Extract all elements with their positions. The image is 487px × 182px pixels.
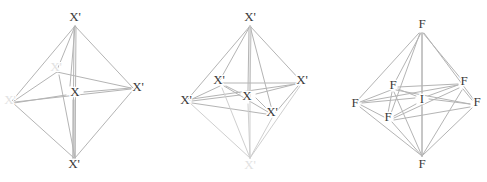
figure-iodine-heptafluoride: F F I F F F F F xyxy=(325,0,487,182)
atom-label-apical-top: X' xyxy=(69,9,81,24)
bond-bottom-fLL xyxy=(392,122,422,156)
atom-label-equatorial-c: X' xyxy=(4,92,16,107)
bond-eqA-eqC xyxy=(14,72,57,101)
figure-right-svg: F F I F F F F F xyxy=(325,0,487,182)
atom-label-equatorial-b: X' xyxy=(296,72,308,87)
bond-iodine-fLL xyxy=(394,104,416,116)
atom-label-fluorine-upper-right: F xyxy=(460,73,467,88)
figure-trigonal-bipyramidal: X' X' X X' X' X' xyxy=(0,0,162,182)
bond-top-center xyxy=(248,27,249,90)
bond-network-right xyxy=(357,33,474,156)
atom-label-iodine-center: I xyxy=(420,91,424,106)
bond-top-eqC xyxy=(12,26,75,101)
atom-label-central: X xyxy=(70,84,80,99)
bond-top-eqC xyxy=(188,26,250,99)
bond-bottom-fUL xyxy=(394,92,422,156)
figure-left-svg: X' X' X X' X' X' xyxy=(0,0,162,182)
atom-label-central: X xyxy=(242,88,252,103)
bond-bottom-eqB xyxy=(250,86,300,158)
bond-bottom-eqB xyxy=(75,90,133,158)
bond-center-eqA xyxy=(226,86,240,93)
atom-label-fluorine-upper-left: F xyxy=(389,77,396,92)
atom-label-fluorine-lower-left: F xyxy=(384,109,391,124)
atom-label-equatorial-a: X' xyxy=(50,59,62,74)
atom-label-apical-top: X' xyxy=(244,9,256,24)
bond-bottom-eqC xyxy=(13,103,74,158)
atom-label-fluorine-top: F xyxy=(418,16,425,31)
atom-label-equatorial-d: X' xyxy=(266,104,278,119)
bond-eqB-eqD xyxy=(276,86,298,112)
atom-label-apical-bottom: X' xyxy=(68,156,80,171)
bond-fUL-fL xyxy=(360,90,391,102)
atom-label-fluorine-left: F xyxy=(351,95,358,110)
bond-bottom-eqD xyxy=(250,118,272,158)
atom-label-equatorial-c: X' xyxy=(180,92,192,107)
bond-top-fLL xyxy=(390,33,420,116)
atom-label-fluorine-right: F xyxy=(473,94,480,109)
figure-pentagonal-bipyramidal: X' X' X X' X' X' X' xyxy=(162,0,325,182)
atom-label-equatorial-b: X' xyxy=(132,79,144,94)
diagram-canvas: X' X' X X' X' X' xyxy=(0,0,487,182)
atom-label-fluorine-bottom: F xyxy=(418,156,425,171)
atom-label-apical-bottom: X' xyxy=(244,157,256,172)
figure-middle-svg: X' X' X X' X' X' X' xyxy=(162,0,325,182)
atom-label-equatorial-a: X' xyxy=(213,72,225,87)
bond-top-eqB xyxy=(75,26,133,88)
bond-bottom-eqC xyxy=(190,103,250,158)
